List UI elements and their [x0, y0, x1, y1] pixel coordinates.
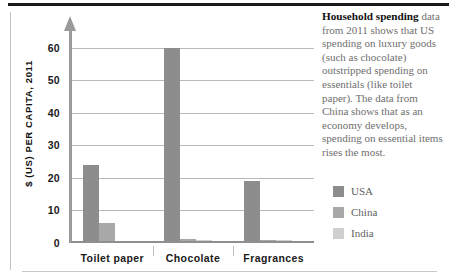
legend-label-usa: USA — [351, 186, 373, 197]
legend-label-india: India — [351, 228, 374, 239]
gridline — [72, 80, 314, 81]
y-tick-label: 50 — [30, 74, 60, 86]
y-tick-label: 60 — [30, 42, 60, 54]
legend-item-china[interactable]: China — [333, 204, 443, 221]
gridline — [72, 145, 314, 146]
legend: USA China India — [333, 183, 443, 246]
x-axis-baseline — [72, 241, 314, 243]
caption-body: data from 2011 shows that US spending on… — [322, 10, 443, 158]
x-label-fragrances: Fragrances — [233, 252, 314, 264]
caption-text: Household spending data from 2011 shows … — [322, 10, 444, 160]
x-label-chocolate: Chocolate — [153, 252, 234, 264]
figure-container: $ (US) PER CAPITA, 2011 0102030405060 To… — [0, 0, 449, 280]
x-axis-separator-tick — [233, 246, 234, 256]
y-tick-label: 10 — [30, 204, 60, 216]
gridline — [72, 210, 314, 211]
gridline — [72, 113, 314, 114]
gridline — [72, 48, 314, 49]
plot-area — [72, 38, 314, 243]
bar-usa-toilet-paper — [83, 165, 99, 243]
bar-chart: $ (US) PER CAPITA, 2011 0102030405060 To… — [0, 0, 320, 280]
legend-item-india[interactable]: India — [333, 225, 443, 242]
legend-item-usa[interactable]: USA — [333, 183, 443, 200]
legend-swatch-icon-india — [333, 228, 344, 239]
legend-swatch-icon-china — [333, 207, 344, 218]
legend-label-china: China — [351, 207, 377, 218]
y-tick-label: 40 — [30, 107, 60, 119]
gridline — [72, 178, 314, 179]
caption-panel: Household spending data from 2011 shows … — [322, 10, 444, 160]
y-axis-label: $ (US) PER CAPITA, 2011 — [23, 34, 34, 214]
legend-swatch-icon-usa — [333, 186, 344, 197]
x-label-toilet-paper: Toilet paper — [72, 252, 153, 264]
y-tick-label: 30 — [30, 139, 60, 151]
x-axis-separator-tick — [153, 246, 154, 256]
bar-usa-chocolate — [164, 48, 180, 243]
y-tick-label: 20 — [30, 172, 60, 184]
caption-lead: Household spending — [322, 10, 419, 22]
y-tick-label: 0 — [30, 237, 60, 249]
y-axis-arrow-icon — [64, 16, 76, 31]
bar-usa-fragrances — [244, 181, 260, 243]
